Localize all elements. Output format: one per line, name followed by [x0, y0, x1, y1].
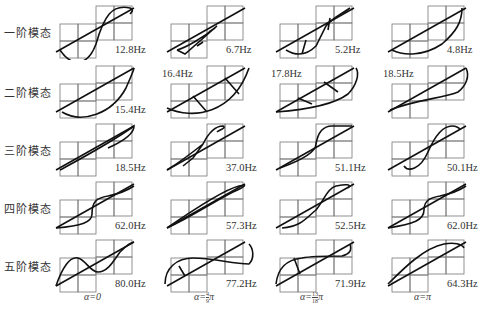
frequency-label: 4.8Hz	[446, 44, 473, 56]
frequency-label: 17.8Hz	[270, 68, 303, 80]
row-label-mode-1: 一阶模态	[4, 24, 52, 40]
mode-panel-r3-c2: 37.0Hz	[163, 122, 273, 178]
mode-panel-r4-c2: 57.3Hz	[163, 180, 273, 236]
mode-panel-r5-c3: 71.9Hz	[272, 238, 382, 294]
frequency-label: 16.4Hz	[161, 68, 194, 80]
mode-panel-r5-c1: 80.0Hz	[52, 238, 162, 294]
frequency-label: 71.9Hz	[334, 278, 367, 290]
mode-panel-r2-c1: 15.4Hz	[52, 64, 162, 120]
frequency-label: 57.3Hz	[225, 220, 258, 232]
row-label-mode-5: 五阶模态	[4, 258, 52, 274]
row-label-mode-3: 三阶模态	[4, 142, 52, 158]
mode-panel-r5-c4: 64.3Hz	[384, 238, 482, 294]
frequency-label: 18.5Hz	[382, 68, 415, 80]
mode-shape-icon	[163, 4, 273, 60]
mode-panel-r4-c3: 52.5Hz	[272, 180, 382, 236]
mode-panel-r2-c4: 18.5Hz	[384, 64, 482, 120]
frequency-label: 52.5Hz	[334, 220, 367, 232]
column-label-alpha-3: α=1318π	[300, 291, 323, 304]
mode-panel-r4-c4: 62.0Hz	[384, 180, 482, 236]
mode-panel-r3-c4: 50.1Hz	[384, 122, 482, 178]
mode-panel-r1-c1: 12.8Hz	[52, 4, 162, 60]
mode-panel-r3-c3: 51.1Hz	[272, 122, 382, 178]
frequency-label: 50.1Hz	[446, 162, 479, 174]
mode-panel-r1-c2: 6.7Hz	[163, 4, 273, 60]
mode-panel-r2-c2: 16.4Hz	[163, 64, 273, 120]
frequency-label: 15.4Hz	[114, 104, 147, 116]
frequency-label: 51.1Hz	[334, 162, 367, 174]
column-label-alpha-1: α=0	[84, 291, 101, 302]
mode-panel-r2-c3: 17.8Hz	[272, 64, 382, 120]
mode-panel-r1-c4: 4.8Hz	[384, 4, 482, 60]
row-label-mode-4: 四阶模态	[4, 200, 52, 216]
row-label-mode-2: 二阶模态	[4, 84, 52, 100]
frequency-label: 77.2Hz	[225, 278, 258, 290]
column-label-alpha-2: α=49π	[194, 291, 214, 304]
mode-panel-r4-c1: 62.0Hz	[52, 180, 162, 236]
mode-panel-r1-c3: 5.2Hz	[272, 4, 382, 60]
frequency-label: 80.0Hz	[114, 278, 147, 290]
frequency-label: 64.3Hz	[446, 278, 479, 290]
frequency-label: 37.0Hz	[225, 162, 258, 174]
mode-shape-icon	[272, 4, 382, 60]
column-label-alpha-4: α=π	[414, 291, 431, 302]
mode-panel-r3-c1: 18.5Hz	[52, 122, 162, 178]
frequency-label: 62.0Hz	[446, 220, 479, 232]
frequency-label: 5.2Hz	[334, 44, 361, 56]
frequency-label: 6.7Hz	[225, 44, 252, 56]
frequency-label: 62.0Hz	[114, 220, 147, 232]
frequency-label: 12.8Hz	[114, 44, 147, 56]
frequency-label: 18.5Hz	[114, 162, 147, 174]
mode-panel-r5-c2: 77.2Hz	[163, 238, 273, 294]
